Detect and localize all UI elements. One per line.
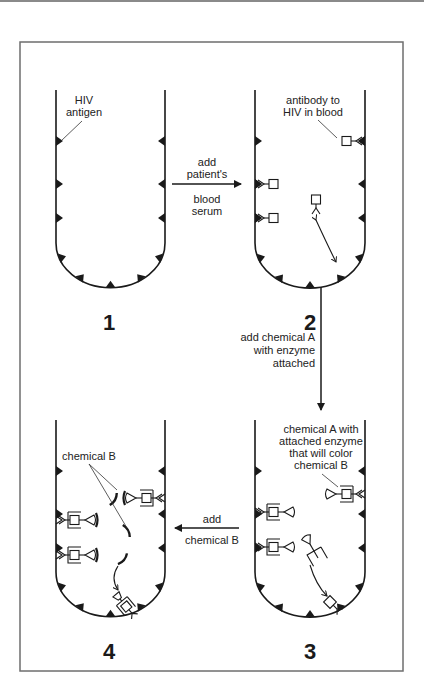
- tube-3-callout-line: [322, 474, 338, 487]
- step-1-label-line-4: serum: [192, 205, 223, 217]
- hiv-antigen-icon: [255, 466, 262, 476]
- tube-1-label-line-1: HIV: [75, 94, 94, 106]
- hiv-antigen-icon-shape: [358, 179, 365, 189]
- hiv-antigen-icon-shape: [56, 179, 63, 189]
- hiv-antigen-icon-shape: [106, 281, 116, 288]
- hiv-antigen-icon: [333, 271, 345, 283]
- binding-motion-arrow: [316, 220, 336, 262]
- hiv-antigen-icon: [158, 213, 165, 223]
- hiv-antigen-icon-shape: [354, 252, 364, 264]
- free-antibody-icon: [312, 195, 321, 214]
- hiv-antigen-icon: [358, 213, 365, 223]
- hiv-antigen-icon: [75, 600, 87, 612]
- hiv-antigen-icon: [305, 610, 315, 617]
- hiv-antigen-icon-shape: [158, 179, 165, 189]
- tube-2-label-line-1: antibody to: [286, 94, 340, 106]
- chemical-b-icon: [110, 493, 119, 506]
- hiv-antigen-icon: [275, 600, 287, 612]
- hiv-antigen-icon: [58, 251, 68, 263]
- hiv-antigen-icon-shape: [158, 213, 165, 223]
- tube-1-number: 1: [103, 310, 115, 335]
- hiv-antigen-icon: [154, 251, 164, 263]
- hiv-antigen-icon: [255, 136, 262, 146]
- antibody-chemical-a-complex-icon: [255, 539, 295, 555]
- hiv-antigen-icon-shape: [358, 509, 365, 519]
- hiv-antigen-icon: [358, 509, 365, 519]
- tube-3-label-line-1: chemical A with: [283, 423, 358, 435]
- step-1-label-line-3: blood: [194, 193, 221, 205]
- hiv-antigen-icon: [358, 179, 365, 189]
- hiv-antigen-icon: [354, 581, 364, 593]
- antibody-chemical-a-complex-icon: [255, 504, 295, 520]
- hiv-antigen-icon: [305, 281, 315, 288]
- tube-1-label-line-2: antigen: [66, 106, 102, 118]
- hiv-antigen-icon: [358, 466, 365, 476]
- hiv-antigen-icon-shape: [255, 466, 262, 476]
- hiv-antigen-icon-shape: [56, 213, 63, 223]
- hiv-antigen-icon-shape: [106, 610, 116, 617]
- hiv-antigen-icon: [275, 271, 287, 283]
- binding-motion-arrow: [114, 566, 118, 590]
- tube-4-number: 4: [103, 639, 116, 664]
- tube-3-number: 3: [304, 639, 316, 664]
- step-1-label-line-1: add: [198, 156, 216, 168]
- hiv-antigen-icon: [58, 580, 68, 592]
- tube-4-callout-line-a: [89, 464, 117, 490]
- chemical-b-icon: [123, 524, 132, 537]
- hiv-antigen-icon: [158, 509, 165, 519]
- tube-1-callout-line: [61, 121, 82, 141]
- hiv-antigen-icon-shape: [158, 466, 165, 476]
- hiv-antigen-icon-shape: [56, 466, 63, 476]
- hiv-antigen-icon-shape: [154, 251, 164, 263]
- hiv-antigen-icon-shape: [58, 251, 68, 263]
- hiv-antigen-icon-shape: [58, 580, 68, 592]
- tube-3-label-line-3: that will color: [289, 447, 353, 459]
- hiv-elisa-diagram: add patient's blood serum add chemical A…: [0, 0, 424, 699]
- chemical-b-icon: [118, 553, 129, 565]
- hiv-antigen-icon-shape: [158, 543, 165, 553]
- hiv-antigen-icon-shape: [133, 271, 145, 283]
- hiv-antigen-icon: [56, 213, 63, 223]
- step-2-label-line-2: with enzyme: [253, 344, 315, 356]
- hiv-antigen-icon: [158, 543, 165, 553]
- hiv-antigen-icon: [158, 136, 165, 146]
- test-tube-2: [255, 90, 365, 288]
- hiv-antigen-icon: [56, 466, 63, 476]
- hiv-antigen-icon-shape: [257, 581, 267, 593]
- tube-2-label-line-2: HIV in blood: [283, 106, 343, 118]
- hiv-antigen-icon: [56, 136, 63, 146]
- step-3-label-line-1: add: [203, 513, 221, 525]
- colored-complex-icon: [124, 490, 166, 506]
- hiv-antigen-icon: [133, 271, 145, 283]
- hiv-antigen-icon: [354, 252, 364, 264]
- tube-3-label-line-2: attached enzyme: [279, 435, 363, 447]
- hiv-antigen-icon-shape: [158, 136, 165, 146]
- tube-2-callout-line: [318, 120, 337, 138]
- hiv-antigen-icon: [106, 610, 116, 617]
- hiv-antigen-icon: [358, 543, 365, 553]
- hiv-antigen-icon-shape: [275, 271, 287, 283]
- hiv-antigen-icon: [158, 466, 165, 476]
- hiv-antigen-icon-shape: [333, 271, 345, 283]
- hiv-antigen-icon-shape: [358, 466, 365, 476]
- hiv-antigen-icon-shape: [257, 252, 267, 264]
- step-1-label-line-2: patient's: [187, 168, 228, 180]
- tube-2-number: 2: [304, 310, 316, 335]
- tube-3-label-line-4: chemical B: [294, 459, 348, 471]
- hiv-antigen-icon-shape: [56, 136, 63, 146]
- colored-complex-icon: [56, 547, 98, 563]
- hiv-antigen-icon-shape: [158, 509, 165, 519]
- free-chemical-a-icon: [298, 532, 327, 566]
- hiv-antigen-icon: [154, 580, 164, 592]
- hiv-antigen-icon-shape: [305, 281, 315, 288]
- hiv-antigen-icon: [106, 281, 116, 288]
- hiv-antigen-icon-shape: [75, 600, 87, 612]
- hiv-antigen-icon-shape: [354, 581, 364, 593]
- hiv-antigen-icon: [257, 252, 267, 264]
- binding-motion-arrow: [310, 565, 327, 596]
- tube-4-label: chemical B: [62, 450, 116, 462]
- hiv-antigen-icon-shape: [255, 136, 262, 146]
- hiv-antigen-icon-shape: [358, 543, 365, 553]
- hiv-antigen-icon: [257, 581, 267, 593]
- hiv-antigen-icon: [158, 179, 165, 189]
